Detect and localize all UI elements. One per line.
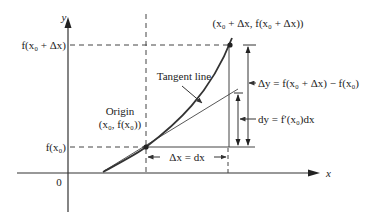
- tangent-label: Tangent line: [157, 70, 212, 82]
- y-tick-upper: f(x₀ + Δx): [21, 39, 66, 52]
- x-axis: [17, 170, 320, 177]
- delta-y-label: Δy = f(x₀ + Δx) − f(x₀): [258, 77, 359, 90]
- end-point: [227, 42, 232, 47]
- y-tick-lower: f(x₀): [46, 141, 67, 154]
- y-axis-label: y: [61, 11, 67, 23]
- origin-point: [143, 144, 148, 149]
- end-point-coords: (x₀ + Δx, f(x₀ + Δx)): [212, 17, 303, 30]
- differential-diagram: y x 0 f(x₀ + Δx) f(x₀) Origin (x₀, f(x₀)…: [0, 0, 381, 222]
- delta-y-bracket: [243, 45, 256, 146]
- dy-bracket: [234, 93, 256, 146]
- x-axis-arrow-icon: [308, 170, 320, 177]
- origin-zero-label: 0: [56, 176, 62, 188]
- x-axis-label: x: [325, 167, 331, 179]
- origin-title: Origin: [106, 105, 135, 117]
- origin-coords: (x₀, f(x₀)): [99, 118, 142, 131]
- tangent-pointer: [182, 86, 202, 103]
- dy-label: dy = f′(x₀)dx: [258, 113, 315, 126]
- delta-x-label: Δx = dx: [169, 151, 205, 163]
